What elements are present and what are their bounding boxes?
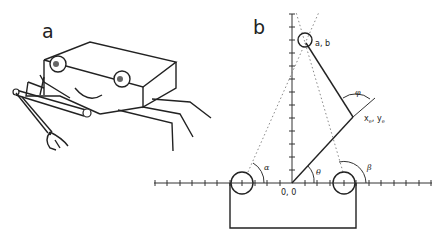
phi-label: φ bbox=[355, 88, 361, 97]
panel-a-label: a bbox=[42, 20, 54, 42]
panel-b-label: b bbox=[253, 16, 265, 38]
robot-drawing bbox=[13, 42, 211, 151]
target-circle bbox=[298, 33, 312, 47]
panel-b: b bbox=[154, 12, 432, 228]
robot-smile bbox=[75, 88, 102, 98]
theta-label: θ bbox=[316, 168, 321, 177]
target-label: a, b bbox=[315, 39, 330, 48]
theta-arc bbox=[308, 166, 314, 183]
left-eye bbox=[50, 56, 66, 72]
beta-label: β bbox=[366, 163, 372, 172]
end-effector-label: xe, ye bbox=[364, 114, 385, 124]
panel-a: a bbox=[13, 20, 211, 151]
right-eye bbox=[114, 71, 130, 87]
robot-legs bbox=[118, 99, 211, 151]
arm-link-2 bbox=[306, 43, 353, 117]
alpha-label: α bbox=[264, 163, 270, 172]
gripper-arm bbox=[13, 89, 91, 150]
arm-link-1 bbox=[292, 117, 353, 183]
figure-canvas: a bbox=[0, 0, 446, 244]
origin-label: 0, 0 bbox=[281, 188, 296, 197]
